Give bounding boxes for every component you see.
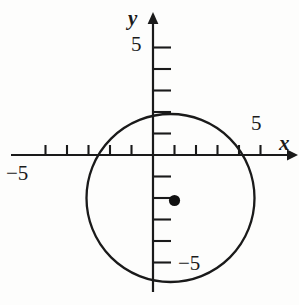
center-point-marker <box>169 195 180 206</box>
y-tick-label-5: 5 <box>131 34 142 55</box>
x-tick-label-negative-5: −5 <box>6 163 28 184</box>
x-axis-label: x <box>279 133 290 154</box>
graph-figure: y x 5 −5 5 −5 <box>0 0 299 305</box>
y-axis-arrowhead <box>148 12 159 24</box>
x-tick-label-5: 5 <box>251 113 262 134</box>
coordinate-plane-svg <box>0 0 299 305</box>
y-axis <box>148 12 159 292</box>
y-axis-label: y <box>128 8 137 29</box>
x-axis <box>11 150 298 161</box>
y-tick-label-negative-5: −5 <box>178 253 200 274</box>
